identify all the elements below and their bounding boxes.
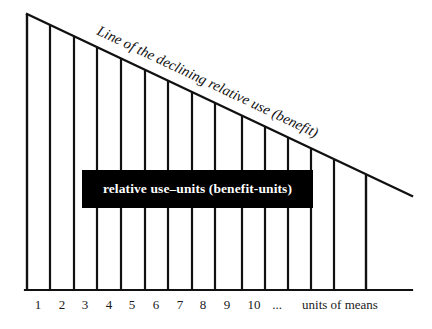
x-tick-label: units of means [302,298,378,311]
x-tick-label: 8 [200,298,207,311]
x-tick-label: 3 [82,298,89,311]
x-tick-label: 10 [248,298,261,311]
diagram-canvas: Line of the declining relative use (bene… [0,0,432,329]
unit-bar-group [27,14,366,290]
callout-label: relative use–units (benefit-units) [103,181,292,197]
x-axis-tick-labels: 12345678910...units of means [0,298,432,318]
x-tick-label: 2 [59,298,66,311]
relative-use-units-callout: relative use–units (benefit-units) [82,170,313,208]
x-tick-label: 4 [106,298,113,311]
declining-line-caption: Line of the declining relative use (bene… [93,22,321,142]
x-tick-label: 7 [177,298,184,311]
x-tick-label: 1 [35,298,42,311]
x-tick-label: ... [272,298,282,311]
x-tick-label: 5 [129,298,136,311]
declining-benefit-line [27,14,412,196]
x-tick-label: 9 [224,298,231,311]
x-tick-label: 6 [153,298,160,311]
declining-marginal-utility-diagram: Line of the declining relative use (bene… [0,0,432,329]
